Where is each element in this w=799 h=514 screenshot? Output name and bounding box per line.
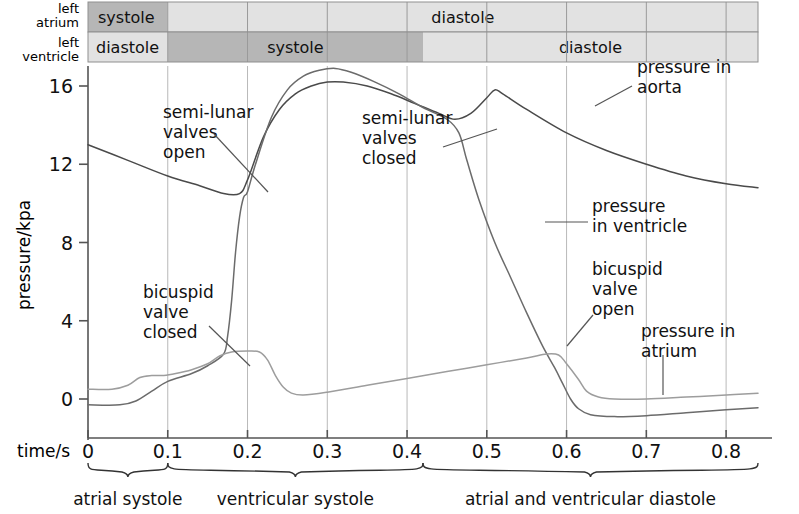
annotation-label: pressure in xyxy=(641,321,735,341)
annotation-label: closed xyxy=(143,322,198,342)
annotation-label: valve xyxy=(143,302,189,322)
figure-svg: left atrium left ventricle systolediasto… xyxy=(0,0,799,514)
phase-segment: systole xyxy=(88,2,168,32)
bracket-label: atrial and ventricular diastole xyxy=(465,489,716,509)
x-axis-tick-label: 0.4 xyxy=(392,440,422,462)
annotation-label: pressure xyxy=(592,196,665,216)
phase-row-labels: left atrium left ventricle xyxy=(22,1,79,64)
cardiac-cycle-figure: left atrium left ventricle systolediasto… xyxy=(0,0,799,514)
x-axis-tick-label: 0.5 xyxy=(472,440,502,462)
y-axis-label: pressure/kpa xyxy=(14,200,34,310)
bracket-shape xyxy=(423,463,758,477)
annotation-label: aorta xyxy=(637,77,682,97)
x-axis-tick-label: 0 xyxy=(82,440,94,462)
y-axis-tick-label: 12 xyxy=(49,153,73,175)
annotation-label: atrium xyxy=(641,341,697,361)
x-axis-tick-label: 0.6 xyxy=(551,440,581,462)
bracket-shape xyxy=(168,463,423,477)
bracket-shape xyxy=(88,463,168,477)
phase-bars: systolediastolediastolesystolediastole xyxy=(88,2,758,62)
annotation-label: semi-lunar xyxy=(362,108,452,128)
phase-bracket: atrial systole xyxy=(73,463,182,509)
bracket-label: ventricular systole xyxy=(217,489,374,509)
annotation-label: in ventricle xyxy=(592,216,687,236)
annotation-label: pressure in xyxy=(637,57,731,77)
x-axis-tick-label: 0.7 xyxy=(631,440,661,462)
annotation-label: bicuspid xyxy=(143,282,214,302)
annotation-label: semi-lunar xyxy=(163,102,253,122)
x-axis-tick-label: 0.3 xyxy=(312,440,342,462)
phase-segment: diastole xyxy=(88,32,168,62)
annotation-label: open xyxy=(592,299,634,319)
annotation-label: closed xyxy=(362,148,417,168)
y-axis-tick-label: 4 xyxy=(61,310,73,332)
phase-segment-label: diastole xyxy=(431,8,494,27)
annotation-label: valve xyxy=(592,279,638,299)
annotation-label: valves xyxy=(163,122,218,142)
phase-segment-label: diastole xyxy=(96,38,159,57)
y-axis-tick-label: 16 xyxy=(49,75,73,97)
phase-brackets: atrial systoleventricular systoleatrial … xyxy=(73,463,758,509)
x-axis-tick-label: 0.1 xyxy=(153,440,183,462)
x-axis-label: time/s xyxy=(17,441,70,461)
bracket-label: atrial systole xyxy=(73,489,182,509)
x-axis: 00.10.20.30.40.50.60.70.8 xyxy=(82,430,772,462)
y-axis-tick-label: 8 xyxy=(61,232,73,254)
phase-bracket: atrial and ventricular diastole xyxy=(423,463,758,509)
left-atrium-label-line2: atrium xyxy=(36,15,79,30)
annotation-label: valves xyxy=(362,128,417,148)
left-atrium-label-line1: left xyxy=(58,1,79,16)
y-axis-tick-label: 0 xyxy=(61,388,73,410)
annotation-label: bicuspid xyxy=(592,259,663,279)
phase-segment: systole xyxy=(168,32,423,62)
x-axis-tick-label: 0.8 xyxy=(711,440,741,462)
phase-segment-label: systole xyxy=(267,38,324,57)
phase-segment-label: diastole xyxy=(559,38,622,57)
phase-segment: diastole xyxy=(168,2,758,32)
phase-bracket: ventricular systole xyxy=(168,463,423,509)
x-axis-tick-label: 0.2 xyxy=(232,440,262,462)
left-ventricle-label-line2: ventricle xyxy=(22,49,79,64)
phase-segment-label: systole xyxy=(98,8,155,27)
annotation-label: open xyxy=(163,142,205,162)
left-ventricle-label-line1: left xyxy=(58,35,79,50)
